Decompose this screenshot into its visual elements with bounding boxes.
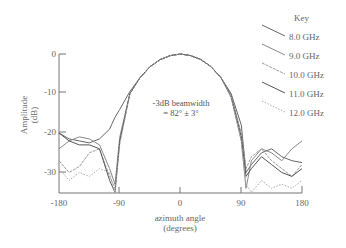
legend-label: 11.0 GHz	[289, 89, 324, 99]
y-ticks: 0 -10 -20 -30	[44, 49, 66, 177]
series-line	[59, 54, 302, 192]
legend-title: Key	[294, 13, 309, 23]
y-tick-label: -30	[44, 167, 56, 177]
y-tick-label: 0	[52, 49, 57, 59]
x-tick-label: 0	[178, 198, 183, 208]
chart-canvas: 0 -10 -20 -30 -180 -90 0 90 180 azimuth …	[0, 0, 346, 248]
beamwidth-annotation: -3dB beamwidth	[153, 98, 211, 108]
legend-swatch	[262, 82, 285, 93]
series-line	[59, 54, 302, 188]
series-line	[59, 54, 302, 188]
legend: Key 8.0 GHz9.0 GHz10.0 GHz11.0 GHz12.0 G…	[262, 13, 324, 118]
beamwidth-annotation-value: = 82° ± 3°	[163, 108, 198, 118]
x-tick-label: 180	[295, 198, 309, 208]
legend-label: 8.0 GHz	[289, 32, 320, 42]
x-ticks: -180 -90 0 90 180	[51, 187, 310, 208]
x-tick-label: -90	[113, 198, 125, 208]
series-line	[59, 54, 302, 192]
legend-swatch	[262, 63, 285, 74]
series-layer	[59, 54, 302, 192]
y-tick-label: -10	[44, 87, 56, 97]
x-axis-title: azimuth angle	[155, 213, 206, 223]
x-axis-title-units: (degrees)	[163, 223, 196, 233]
legend-swatch	[262, 25, 285, 36]
svg-text:Amplitude: Amplitude	[19, 96, 29, 135]
legend-swatch	[262, 101, 285, 112]
svg-text:(dB): (dB)	[29, 107, 39, 124]
legend-label: 10.0 GHz	[289, 70, 324, 80]
y-axis-title: Amplitude (dB)	[19, 96, 39, 135]
y-tick-label: -20	[44, 127, 56, 137]
legend-label: 12.0 GHz	[289, 108, 324, 118]
legend-swatch	[262, 44, 285, 55]
x-tick-label: -180	[51, 198, 68, 208]
x-tick-label: 90	[237, 198, 247, 208]
legend-label: 9.0 GHz	[289, 51, 320, 61]
